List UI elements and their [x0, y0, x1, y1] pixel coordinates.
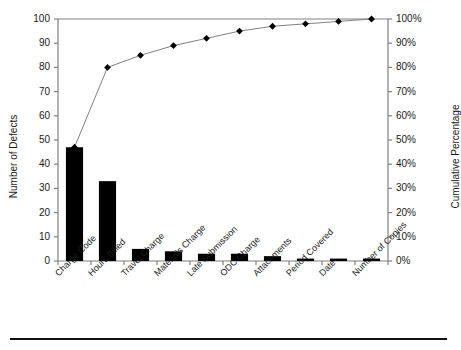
y-tick-label-left: 70 — [20, 87, 50, 97]
y-tick-label-left: 40 — [20, 159, 50, 169]
y-tick-label-left: 50 — [20, 135, 50, 145]
y-tick-label-left: 100 — [20, 14, 50, 24]
cumulative-marker — [170, 42, 177, 49]
y-tick-label-right: 100% — [396, 14, 436, 24]
y-tick-label-right: 60% — [396, 111, 436, 121]
cumulative-marker — [236, 28, 243, 35]
y-tick-label-left: 0 — [20, 256, 50, 266]
y-tick-label-right: 80% — [396, 62, 436, 72]
y-tick-label-right: 40% — [396, 159, 436, 169]
y-tick-label-right: 20% — [396, 208, 436, 218]
y-tick-label-right: 70% — [396, 87, 436, 97]
bottom-divider — [10, 338, 447, 340]
y-tick-label-left: 90 — [20, 38, 50, 48]
cumulative-marker — [368, 16, 375, 23]
y-tick-label-right: 90% — [396, 38, 436, 48]
y-tick-label-left: 60 — [20, 111, 50, 121]
y-tick-label-left: 30 — [20, 183, 50, 193]
y-tick-label-right: 50% — [396, 135, 436, 145]
y-tick-label-left: 20 — [20, 208, 50, 218]
cumulative-marker — [203, 35, 210, 42]
cumulative-marker — [269, 23, 276, 30]
y-tick-label-right: 10% — [396, 232, 436, 242]
y-tick-label-left: 80 — [20, 62, 50, 72]
y-tick-label-left: 10 — [20, 232, 50, 242]
cumulative-marker — [302, 20, 309, 27]
cumulative-line — [75, 19, 372, 147]
y-tick-label-right: 30% — [396, 183, 436, 193]
cumulative-marker — [104, 64, 111, 71]
cumulative-marker — [137, 52, 144, 59]
y-tick-label-right: 0% — [396, 256, 436, 266]
